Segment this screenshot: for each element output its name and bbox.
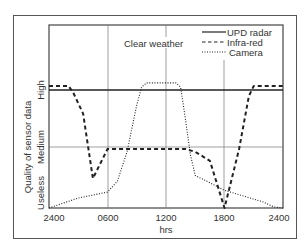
x-tick-0: 2400 xyxy=(43,212,64,223)
x-tick-labels: 2400 0600 1200 1800 2400 xyxy=(43,212,289,223)
legend: UPD radar Infra-red Camera xyxy=(198,26,282,60)
y-tick-high: High xyxy=(35,80,46,100)
y-tick-medium: Medium xyxy=(35,130,46,164)
y-tick-useless: Useless xyxy=(35,176,46,210)
annotation-clear-weather: Clear weather xyxy=(124,38,183,49)
x-tick-3: 1800 xyxy=(213,212,234,223)
x-axis-label: hrs xyxy=(159,224,172,235)
x-tick-4: 2400 xyxy=(268,212,289,223)
legend-label-camera: Camera xyxy=(229,47,264,58)
x-tick-2: 1200 xyxy=(155,212,176,223)
x-tick-1: 0600 xyxy=(97,212,118,223)
y-axis-label: Quality of sensor data xyxy=(22,100,33,193)
chart-svg: UPD radar Infra-red Camera Clear weather… xyxy=(0,0,308,249)
